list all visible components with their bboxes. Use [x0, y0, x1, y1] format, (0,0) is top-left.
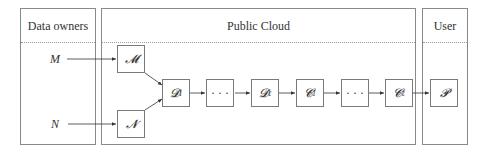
node-dots-2-label: · · · [346, 86, 364, 101]
node-dl-sub: ℓ [268, 89, 271, 98]
node-dl: 𝓓ℓ [251, 79, 279, 107]
node-d1: 𝓓1 [162, 79, 190, 107]
node-m-label: 𝓜 [125, 52, 138, 67]
node-n-encoded: 𝓝 [117, 110, 145, 138]
node-dl-label: 𝓓 [259, 86, 268, 101]
node-n-label: 𝓝 [126, 117, 137, 132]
node-d1-label: 𝓓 [170, 86, 179, 101]
node-p: 𝓟 [430, 79, 458, 107]
node-cl-label: 𝓒 [393, 86, 401, 101]
node-cl-sub: ℓ [401, 89, 404, 98]
node-cl: 𝓒ℓ [385, 79, 413, 107]
flow-arrows [0, 0, 488, 152]
node-c1-sub: 1 [312, 89, 316, 98]
node-m-encoded: 𝓜 [117, 45, 145, 73]
node-d1-sub: 1 [179, 89, 183, 98]
node-dots-1-label: · · · [211, 86, 229, 101]
node-dots-1: · · · [206, 79, 234, 107]
node-c1-label: 𝓒 [304, 86, 312, 101]
node-p-label: 𝓟 [440, 86, 449, 101]
node-dots-2: · · · [341, 79, 369, 107]
node-c1: 𝓒1 [296, 79, 324, 107]
